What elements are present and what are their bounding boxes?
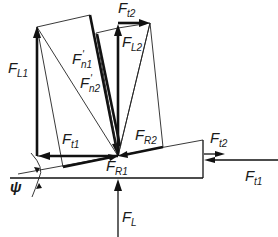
force-diagram: F L1 F ' n1 F ' n2 F t2 F L2 F t1 F R2 F…	[0, 0, 278, 237]
arrowhead-FL2	[114, 24, 122, 36]
diagram-canvas: F L1 F ' n1 F ' n2 F t2 F L2 F t1 F R2 F…	[0, 0, 278, 237]
svg-text:t2: t2	[127, 8, 136, 19]
arrowhead-Ft1	[38, 152, 50, 160]
label-FL2: F L2	[122, 33, 143, 53]
label-FR2: F R2	[135, 126, 157, 146]
vector-Fn2-prime	[97, 34, 120, 146]
label-Ft1-left: F t1	[62, 130, 79, 150]
label-Ft2-right: F t2	[210, 129, 228, 149]
label-Fn1-prime: F ' n1	[72, 49, 92, 70]
svg-text:R1: R1	[115, 166, 128, 177]
parallelogram-1	[37, 15, 118, 156]
svg-text:t2: t2	[219, 138, 228, 149]
arrowhead-Ft2-wedge	[215, 151, 225, 157]
label-Ft2-top: F t2	[118, 0, 136, 19]
svg-text:n1: n1	[81, 59, 92, 70]
svg-text:t1: t1	[71, 139, 79, 150]
vector-Fn1-prime	[90, 15, 116, 146]
label-FR1: F R1	[106, 157, 128, 177]
svg-text:n2: n2	[89, 83, 101, 94]
label-FL1: F L1	[8, 59, 28, 79]
vector-FR1	[63, 157, 112, 167]
angle-arc-psi	[31, 153, 41, 197]
svg-text:t1: t1	[254, 176, 262, 187]
svg-text:L2: L2	[131, 42, 143, 53]
svg-text:R2: R2	[144, 135, 157, 146]
svg-text:L: L	[131, 217, 137, 228]
svg-text:L1: L1	[17, 68, 28, 79]
arrowhead-Ft1-wedge	[204, 157, 215, 163]
label-psi: ψ	[10, 178, 22, 195]
label-Fn2-prime: F ' n2	[80, 73, 101, 94]
parallelogram-2-edge	[150, 23, 163, 147]
arrowhead-Ft2-top	[139, 19, 150, 27]
arrowhead-FL	[114, 179, 122, 191]
vector-FR2	[124, 147, 163, 155]
arrowhead-FR2	[118, 151, 128, 158]
label-FL: F L	[122, 208, 137, 228]
label-Ft1-right: F t1	[245, 167, 262, 187]
svg-text:ψ: ψ	[10, 178, 22, 195]
